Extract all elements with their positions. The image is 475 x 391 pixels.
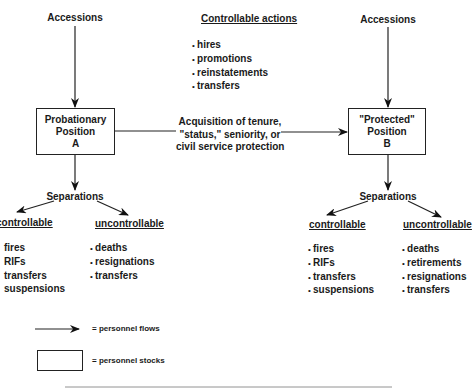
box-a-line3: A: [72, 138, 79, 150]
list-item: promotions: [192, 53, 268, 67]
list-item: suspensions: [4, 283, 65, 297]
transition-line2: "status," seniority, or: [176, 129, 284, 142]
controllable-actions-heading: Controllable actions: [201, 13, 297, 25]
list-item: retirements: [402, 257, 467, 271]
list-item: RIFs: [308, 257, 374, 271]
right-controllable-list: fires RIFs transfers suspensions: [308, 243, 374, 298]
box-a-line1: Probationary: [45, 114, 107, 126]
list-item: deaths: [402, 243, 467, 257]
right-separations-label: Separations: [353, 191, 423, 203]
tenure-transition-label: Acquisition of tenure, "status," seniori…: [176, 116, 284, 154]
box-b-line1: "Protected": [359, 114, 415, 126]
list-item: deaths: [90, 242, 155, 256]
list-item: RIFs: [4, 256, 65, 270]
left-controllable-list: fires RIFs transfers suspensions: [4, 242, 65, 297]
transition-line3: civil service protection: [176, 141, 284, 154]
legend-flows-label: = personnel flows: [92, 323, 160, 335]
list-item: hires: [192, 39, 268, 53]
list-item: fires: [4, 242, 65, 256]
right-uncontrollable-list: deaths retirements resignations transfer…: [402, 243, 467, 298]
left-separations-label: Separations: [40, 191, 110, 203]
list-item: resignations: [90, 256, 155, 270]
probationary-position-box: Probationary Position A: [36, 108, 115, 155]
list-item: transfers: [192, 80, 268, 94]
list-item: reinstatements: [192, 67, 268, 81]
controllable-actions-list: hires promotions reinstatements transfer…: [192, 39, 268, 94]
list-item: transfers: [402, 284, 467, 298]
legend-stock-box-icon: [37, 350, 83, 371]
left-accessions-label: Accessions: [45, 12, 105, 24]
right-controllable-heading: controllable: [309, 219, 366, 231]
box-b-line3: B: [383, 138, 390, 150]
left-uncontrollable-heading: uncontrollable: [95, 218, 164, 230]
box-b-line2: Position: [367, 126, 406, 138]
left-controllable-heading: controllable: [0, 217, 53, 229]
list-item: transfers: [4, 270, 65, 284]
protected-position-box: "Protected" Position B: [348, 108, 426, 155]
list-item: transfers: [308, 271, 374, 285]
list-item: resignations: [402, 271, 467, 285]
list-item: suspensions: [308, 284, 374, 298]
right-uncontrollable-heading: uncontrollable: [403, 219, 472, 231]
right-accessions-label: Accessions: [358, 14, 418, 26]
list-item: fires: [308, 243, 374, 257]
transition-line1: Acquisition of tenure,: [176, 116, 284, 129]
box-a-line2: Position: [56, 126, 95, 138]
left-uncontrollable-list: deaths resignations transfers: [90, 242, 155, 283]
legend-stocks-label: = personnel stocks: [92, 355, 165, 367]
list-item: transfers: [90, 270, 155, 284]
